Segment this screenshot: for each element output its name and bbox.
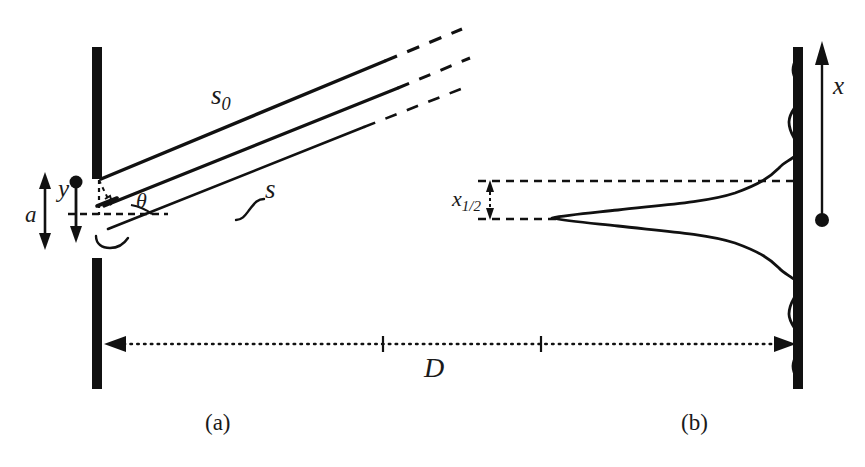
label-y: y	[58, 176, 69, 201]
diffraction-figure	[0, 0, 865, 467]
brace-near-slit	[96, 236, 128, 248]
ray-s-dashed-extension	[364, 87, 466, 127]
barrier-bottom-bar	[92, 258, 102, 389]
ray-middle-dashed-extension	[398, 58, 470, 88]
label-s0: s0	[211, 82, 231, 113]
D-arrowhead-left	[104, 336, 126, 352]
barrier-top-bar	[92, 47, 102, 179]
label-s: s	[265, 176, 276, 203]
x-axis-arrowhead	[815, 41, 829, 65]
brace-over-s	[236, 199, 264, 220]
a-arrowhead-down	[39, 233, 51, 250]
label-a: a	[25, 203, 37, 226]
diffraction-intensity-curve	[552, 47, 801, 389]
ray-s0-dashed-extension	[385, 29, 462, 61]
label-theta: θ	[136, 190, 147, 212]
caption-panel-a: (a)	[205, 411, 231, 434]
label-x-axis: x	[833, 73, 844, 98]
x-axis-origin-dot	[815, 213, 829, 227]
observation-screen-bar	[793, 47, 803, 389]
a-arrowhead-up	[39, 172, 51, 189]
y-arrowhead	[70, 226, 82, 243]
ray-middle-solid	[104, 88, 398, 206]
D-arrowhead-right	[774, 336, 796, 352]
label-x-half: x1/2	[452, 188, 481, 214]
ray-s0-solid	[101, 61, 385, 179]
label-D: D	[424, 354, 444, 382]
caption-panel-b: (b)	[681, 411, 708, 434]
